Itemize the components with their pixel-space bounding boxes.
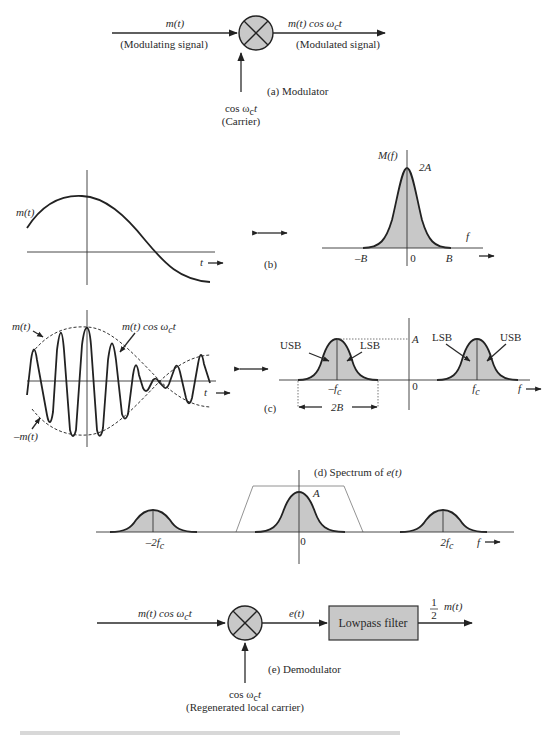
envelope-neg-pointer: [32, 418, 40, 429]
tick-pos-2fc: 2fc: [440, 536, 454, 551]
message-signal-curve: [27, 196, 210, 282]
pos-2fc-fill: [400, 510, 487, 532]
half-numerator: 1: [431, 596, 437, 608]
t-axis-label: t: [200, 256, 204, 268]
tick-pos-fc: fc: [472, 382, 480, 397]
carrier-desc: (Carrier): [222, 115, 261, 128]
input-desc: (Modulating signal): [120, 38, 208, 51]
tick-neg-b: –B: [354, 252, 368, 264]
tick-pos-b: B: [446, 252, 453, 264]
envelope-neg-label: –m(t): [13, 430, 38, 443]
modulator-caption: (a) Modulator: [267, 85, 329, 98]
t-axis-label-c: t: [204, 386, 208, 398]
spectrum-label: M(f): [377, 149, 398, 162]
panel-b-caption: (b): [264, 258, 277, 271]
signal-pointer: [120, 333, 135, 352]
tick-neg-2fc: –2fc: [145, 536, 165, 551]
peak-label-c: A: [411, 333, 419, 345]
input-label: m(t): [166, 17, 185, 30]
usb-left-label: USB: [280, 339, 301, 351]
f-label-d: f: [477, 536, 482, 548]
local-carrier-desc: (Regenerated local carrier): [186, 701, 304, 714]
output-label: m(t) cos ωct: [288, 17, 343, 32]
mixer-output-label: e(t): [289, 607, 305, 620]
tick-zero-d: 0: [300, 535, 306, 547]
demod-input-label: m(t) cos ωct: [138, 607, 193, 622]
negative-envelope: [32, 355, 210, 435]
tick-neg-fc: –fc: [327, 382, 342, 397]
demod-multiplier-icon: [228, 606, 262, 640]
peak-label: 2A: [419, 161, 432, 173]
pos-sideband-fill: [437, 339, 518, 380]
tick-zero-c: 0: [412, 380, 418, 392]
lsb-left-label: LSB: [360, 339, 380, 351]
lsb-right-label: LSB: [432, 331, 452, 343]
demodulator-block: Lowpass filter m(t) cos ωct e(t) 1 2 m(t…: [97, 596, 472, 714]
output-desc: (Modulated signal): [296, 38, 380, 51]
tick-zero: 0: [410, 252, 416, 264]
baseband-fill-d: [255, 492, 345, 532]
panel-c-caption: (c): [264, 402, 277, 415]
modulated-signal-curve: [27, 328, 210, 436]
envelope-pos-pointer: [33, 331, 43, 337]
panel-d-caption: (d) Spectrum of e(t): [314, 466, 402, 479]
lowpass-filter-label: Lowpass filter: [339, 616, 408, 630]
envelope-pos-label: m(t): [12, 320, 31, 333]
usb-right-label: USB: [500, 331, 521, 343]
demodulator-caption: (e) Demodulator: [268, 663, 341, 676]
bandwidth-label: 2B: [331, 401, 344, 413]
dsb-sc-diagram: m(t) (Modulating signal) m(t) cos ωct (M…: [0, 0, 557, 735]
m-t-label: m(t): [16, 206, 35, 219]
peak-label-d: A: [312, 487, 320, 499]
multiplier-icon: [239, 16, 273, 50]
panel-c: m(t) –m(t) m(t) cos ωct t (c) A USB LSB …: [12, 310, 541, 447]
panel-d: (d) Spectrum of e(t) A –2fc 0 2fc f: [96, 466, 514, 564]
f-label-c: f: [518, 382, 523, 394]
modulator-block: m(t) (Modulating signal) m(t) cos ωct (M…: [112, 16, 385, 128]
half-denominator: 2: [431, 609, 437, 621]
clipped-figure-caption: [20, 731, 400, 735]
neg-2fc-fill: [110, 510, 197, 532]
demod-output-label: m(t): [444, 600, 463, 613]
f-label: f: [466, 230, 471, 242]
signal-label: m(t) cos ωct: [122, 320, 177, 335]
panel-b: m(t) t (b) M(f) 2A f –B 0 B: [16, 149, 494, 285]
